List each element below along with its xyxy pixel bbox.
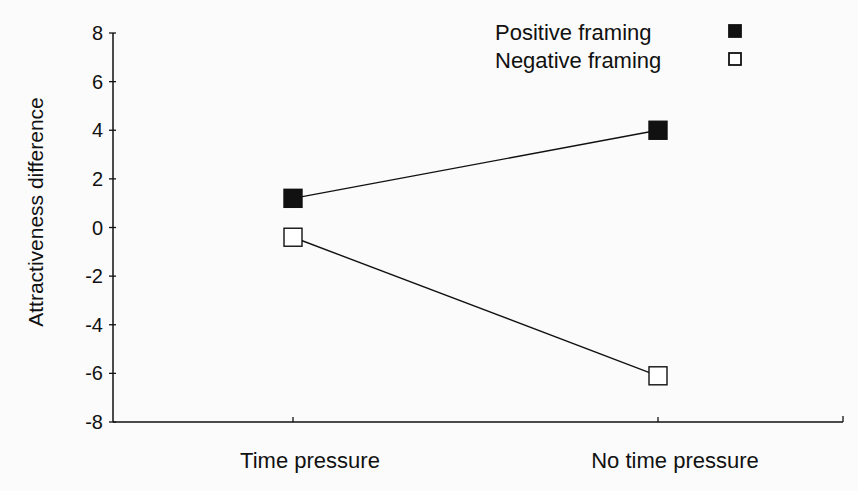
x-axis: Time pressureNo time pressure <box>113 416 843 473</box>
open-square-marker <box>649 367 667 385</box>
y-tick-label: 6 <box>92 71 103 93</box>
y-tick-label: -8 <box>85 411 103 433</box>
legend: Positive framingNegative framing <box>495 20 741 73</box>
legend-label: Negative framing <box>495 48 661 73</box>
filled-square-marker <box>284 189 302 207</box>
y-axis-label: Attractiveness difference <box>24 97 47 327</box>
y-tick-label: 2 <box>92 168 103 190</box>
x-tick-label: No time pressure <box>591 448 759 473</box>
y-tick-label: -2 <box>85 265 103 287</box>
y-axis: 86420-2-4-6-8 <box>85 22 116 433</box>
filled-square-marker <box>649 121 667 139</box>
series-line <box>293 237 658 376</box>
y-tick-label: 0 <box>92 217 103 239</box>
legend-filled-square-icon <box>729 25 741 37</box>
y-tick-label: -6 <box>85 362 103 384</box>
y-tick-label: 4 <box>92 119 103 141</box>
series-line <box>293 130 658 198</box>
y-tick-label: -4 <box>85 314 103 336</box>
x-tick-label: Time pressure <box>240 448 380 473</box>
y-tick-label: 8 <box>92 22 103 44</box>
data-markers <box>284 121 667 385</box>
legend-label: Positive framing <box>495 20 652 45</box>
open-square-marker <box>284 228 302 246</box>
line-chart: 86420-2-4-6-8 Time pressureNo time press… <box>0 0 858 491</box>
series-lines <box>293 130 658 376</box>
legend-open-square-icon <box>729 53 741 65</box>
